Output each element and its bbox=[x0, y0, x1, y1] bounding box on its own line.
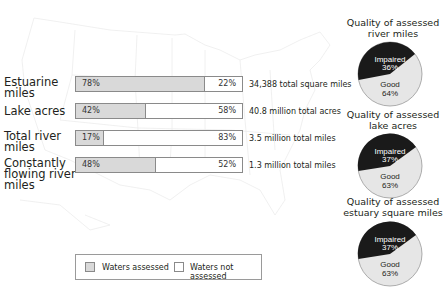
bar-lake-acres: 42% 58% bbox=[75, 103, 243, 119]
assessed-percent: 78% bbox=[82, 79, 100, 88]
pie-chart-lake-acres: Impaired 37% Good 63% bbox=[356, 132, 424, 200]
good-value: 63% bbox=[382, 269, 398, 278]
legend-label-assessed: Waters assessed bbox=[102, 263, 169, 272]
not-assessed-percent: 22% bbox=[218, 79, 236, 88]
bar-estuarine-miles: 78% 22% bbox=[75, 76, 243, 92]
label-line: miles bbox=[4, 88, 58, 99]
title-line: river miles bbox=[340, 29, 446, 40]
row-label-lake-acres: Lake acres bbox=[4, 106, 65, 117]
good-value: 63% bbox=[382, 181, 398, 190]
pie-title-river-miles: Quality of assessed river miles bbox=[340, 18, 446, 39]
pie-chart-river-miles: Impaired 36% Good 64% bbox=[356, 40, 424, 108]
label-line: miles bbox=[4, 180, 76, 191]
not-assessed-percent: 52% bbox=[218, 160, 236, 169]
row-label-estuarine-miles: Estuarine miles bbox=[4, 77, 58, 99]
bar-constantly-flowing-river-miles: 48% 52% bbox=[75, 157, 243, 173]
title-line: Quality of assessed bbox=[340, 18, 446, 29]
us-map-background bbox=[0, 0, 340, 240]
total-estuarine: 34,388 total square miles bbox=[249, 80, 352, 89]
total-lake: 40.8 million total acres bbox=[249, 107, 341, 116]
good-value: 64% bbox=[382, 89, 398, 98]
title-line: estuary square miles bbox=[340, 208, 446, 219]
pie-title-lake-acres: Quality of assessed lake acres bbox=[340, 110, 446, 131]
total-flowing-river: 1.3 million total miles bbox=[249, 161, 336, 170]
label-line: miles bbox=[4, 142, 61, 153]
label-line: Lake acres bbox=[4, 106, 65, 117]
row-label-constantly-flowing-river-miles: Constantly flowing river miles bbox=[4, 158, 76, 191]
not-assessed-percent: 58% bbox=[218, 106, 236, 115]
impaired-value: 36% bbox=[382, 63, 398, 72]
legend-label-not-assessed: Waters not assessed bbox=[190, 263, 261, 281]
good-label: Good bbox=[380, 260, 400, 269]
title-line: Quality of assessed bbox=[340, 110, 446, 121]
total-river: 3.5 million total miles bbox=[249, 134, 336, 143]
legend-swatch-assessed bbox=[85, 262, 95, 272]
pie-chart-estuary-square-miles: Impaired 37% Good 63% bbox=[356, 220, 424, 288]
row-label-total-river-miles: Total river miles bbox=[4, 131, 61, 153]
title-line: lake acres bbox=[340, 121, 446, 132]
pie-title-estuary-square-miles: Quality of assessed estuary square miles bbox=[340, 197, 446, 218]
assessed-percent: 17% bbox=[82, 133, 100, 142]
legend-swatch-not-assessed bbox=[174, 262, 184, 272]
legend: Waters assessed Waters not assessed bbox=[75, 254, 262, 280]
assessed-percent: 48% bbox=[82, 160, 100, 169]
assessed-percent: 42% bbox=[82, 106, 100, 115]
not-assessed-percent: 83% bbox=[218, 133, 236, 142]
impaired-value: 37% bbox=[382, 243, 398, 252]
bar-total-river-miles: 17% 83% bbox=[75, 130, 243, 146]
impaired-value: 37% bbox=[382, 155, 398, 164]
title-line: Quality of assessed bbox=[340, 197, 446, 208]
good-label: Good bbox=[380, 172, 400, 181]
good-label: Good bbox=[380, 80, 400, 89]
